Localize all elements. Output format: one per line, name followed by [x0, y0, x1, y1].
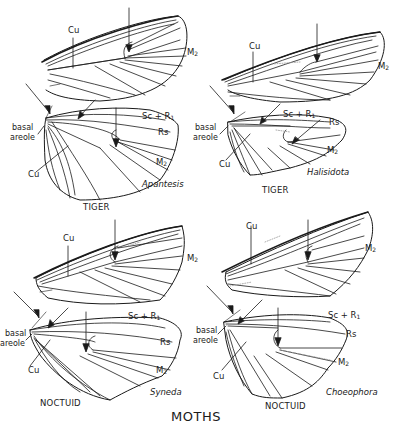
label-m2-forewing: M2	[378, 62, 389, 71]
label-sc-r1: Sc + R1	[128, 312, 160, 321]
wing-drawings	[0, 0, 405, 444]
forewing-arrow	[112, 220, 118, 260]
label-genus: Choeophora	[326, 388, 378, 397]
label-areole: areole	[193, 134, 218, 142]
label-family: TIGER	[83, 203, 110, 212]
label-m2-forewing: M2	[187, 254, 198, 263]
forewing-outline	[222, 212, 373, 297]
label-sc-r1: Sc + R1	[283, 110, 315, 119]
label-cu-hindwing: Cu	[28, 170, 39, 179]
label-basal: basal	[195, 124, 216, 132]
label-sc-r1: Sc + R1	[328, 311, 360, 320]
cu-hindwing-pointer	[226, 134, 250, 160]
label-cu-forewing: Cu	[246, 222, 257, 231]
panel-halisidota-drawing	[210, 24, 384, 175]
forewing-arrow	[305, 220, 311, 260]
label-rs: Rs	[158, 128, 168, 137]
label-m2-forewing: M2	[187, 48, 198, 57]
label-family: NOCTUID	[40, 399, 81, 408]
label-family: TIGER	[262, 186, 289, 195]
forewing-arrow	[314, 24, 320, 62]
label-cu-hindwing: Cu	[213, 372, 224, 381]
label-m2-hindwing: M2	[156, 158, 167, 167]
hindwing-outline	[224, 315, 347, 398]
label-basal: basal	[12, 124, 33, 132]
label-family: NOCTUID	[265, 402, 306, 411]
label-areole: areole	[193, 337, 218, 345]
label-m2-hindwing: M2	[338, 358, 349, 367]
forewing-outline	[34, 226, 184, 304]
label-genus: Halisidota	[307, 168, 349, 177]
label-rs: Rs	[160, 338, 170, 347]
label-genus: Apantesis	[142, 180, 184, 189]
label-areole: areole	[10, 134, 35, 142]
cu-hindwing-pointer	[36, 146, 68, 172]
label-cu-hindwing: Cu	[219, 160, 230, 169]
basal-areole-pointer	[220, 126, 228, 134]
hindwing-arrows	[14, 292, 89, 352]
label-rs: Rs	[329, 118, 339, 127]
panel-choeophora-drawing	[207, 212, 373, 398]
label-m2-hindwing: M2	[156, 366, 167, 375]
label-rs: Rs	[346, 330, 356, 339]
label-basal: basal	[5, 330, 26, 338]
label-cu-forewing: Cu	[249, 42, 260, 51]
figure-title: MOTHS	[171, 410, 221, 423]
label-m2-hindwing: M2	[327, 146, 338, 155]
forewing-outline	[222, 32, 384, 102]
forewing-outline	[42, 16, 187, 101]
label-m2-forewing: M2	[365, 244, 376, 253]
label-genus: Syneda	[150, 388, 182, 397]
label-cu-hindwing: Cu	[28, 366, 39, 375]
label-cu-forewing: Cu	[68, 26, 79, 35]
moth-wing-venation-figure: Cu M2 Sc + R1 Rs M2 basal areole Cu Apan…	[0, 0, 405, 444]
panel-apantesis-drawing	[26, 8, 187, 200]
label-basal: basal	[196, 327, 217, 335]
basal-areole-pointer	[38, 126, 44, 134]
label-cu-forewing: Cu	[63, 234, 74, 243]
forewing-arrow	[126, 8, 132, 52]
label-areole: areole	[0, 340, 25, 348]
label-sc-r1: Sc + R1	[142, 112, 174, 121]
